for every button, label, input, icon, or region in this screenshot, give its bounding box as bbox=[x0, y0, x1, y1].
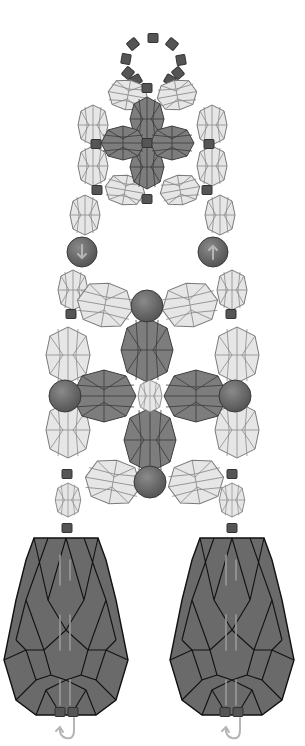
top-seed-bead-loop bbox=[121, 34, 187, 87]
teardrop-bead-left bbox=[4, 538, 128, 715]
turnaround-arrow-icon bbox=[56, 718, 240, 738]
upper-cluster bbox=[78, 77, 227, 208]
beading-pattern-diagram bbox=[0, 0, 305, 746]
teardrop-bead-right bbox=[170, 538, 294, 715]
